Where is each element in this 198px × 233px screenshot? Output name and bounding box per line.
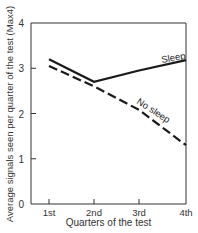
y-tick-label: 4 (18, 18, 24, 29)
series-no-sleep (49, 66, 186, 145)
y-tick-label: 2 (18, 109, 24, 120)
y-axis-label-text: Average signals seen per quarter of the … (4, 6, 15, 222)
y-axis-label: Average signals seen per quarter of the … (2, 0, 16, 233)
chart-plot: 012341st2nd3rd4th SleepNo sleep (0, 0, 198, 233)
x-axis-label: Quarters of the test (31, 217, 186, 228)
series-lines (49, 59, 186, 145)
y-tick-label: 3 (18, 63, 24, 74)
y-tick-label: 1 (18, 154, 24, 165)
label-sleep: Sleep (160, 50, 186, 65)
y-tick-label: 0 (18, 199, 24, 210)
